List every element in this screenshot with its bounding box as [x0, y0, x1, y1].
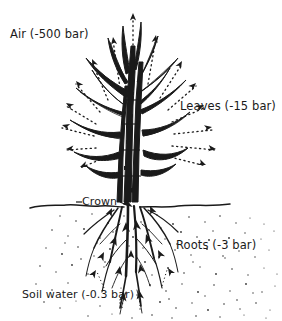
roots-label: Roots (-3 bar) [176, 238, 256, 252]
grass-plant [70, 22, 190, 202]
soil-water-label: Soil water (-0.3 bar) [22, 288, 134, 301]
crown-label: Crown [82, 195, 117, 208]
diagram-canvas [0, 0, 282, 321]
air-label: Air (-500 bar) [10, 27, 89, 41]
leaves-label: Leaves (-15 bar) [180, 99, 276, 113]
water-potential-diagram: Air (-500 bar) Leaves (-15 bar) Crown Ro… [0, 0, 282, 321]
